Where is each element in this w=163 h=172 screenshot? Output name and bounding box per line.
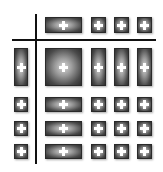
vertical-divider: [35, 14, 37, 164]
cell-tall: [91, 48, 106, 86]
cell: [137, 144, 152, 159]
header-cell: [114, 17, 129, 33]
plus-icon: [17, 124, 26, 133]
plus-icon: [59, 63, 68, 72]
header-cell-wide: [45, 17, 82, 33]
cell: [91, 121, 106, 136]
plus-icon: [59, 21, 68, 30]
row-header-cell: [14, 97, 28, 112]
cell-tall: [137, 48, 152, 86]
plus-icon: [94, 147, 103, 156]
plus-icon: [94, 21, 103, 30]
header-cell: [91, 17, 106, 33]
plus-icon: [117, 63, 126, 72]
cell: [114, 97, 129, 112]
horizontal-divider: [12, 39, 156, 41]
plus-icon: [94, 100, 103, 109]
cell: [91, 97, 106, 112]
plus-icon: [117, 147, 126, 156]
header-cell: [137, 17, 152, 33]
cell: [114, 144, 129, 159]
cell: [114, 121, 129, 136]
plus-icon: [140, 63, 149, 72]
plus-icon: [117, 124, 126, 133]
cell-wide: [45, 121, 82, 136]
plus-icon: [94, 124, 103, 133]
row-header-cell: [14, 121, 28, 136]
cell-wide: [45, 144, 82, 159]
plus-icon: [59, 147, 68, 156]
plus-icon: [140, 147, 149, 156]
plus-icon: [140, 100, 149, 109]
plus-icon: [17, 100, 26, 109]
row-header-cell-tall: [14, 48, 28, 86]
cell: [137, 121, 152, 136]
cell: [91, 144, 106, 159]
cell: [137, 97, 152, 112]
plus-icon: [94, 63, 103, 72]
plus-icon: [140, 21, 149, 30]
plus-icon: [117, 21, 126, 30]
plus-icon: [59, 100, 68, 109]
plus-icon: [17, 147, 26, 156]
plus-icon: [117, 100, 126, 109]
plus-icon: [59, 124, 68, 133]
main-cell-large: [45, 48, 82, 86]
cell-tall: [114, 48, 129, 86]
row-header-cell: [14, 144, 28, 159]
plus-icon: [140, 124, 149, 133]
cell-wide: [45, 97, 82, 112]
plus-icon: [17, 63, 26, 72]
